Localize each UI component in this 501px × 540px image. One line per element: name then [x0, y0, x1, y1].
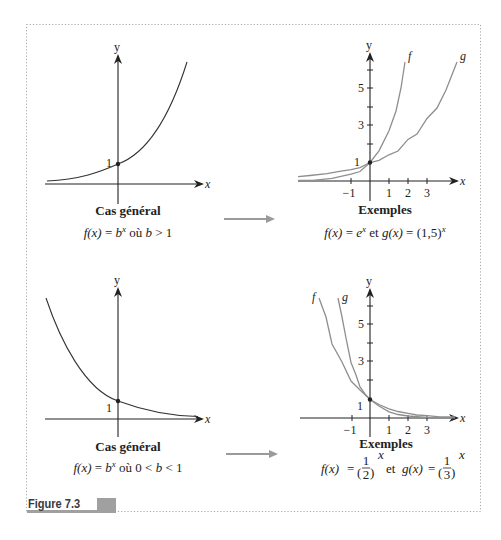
panel-title: Exemples [359, 436, 412, 451]
svg-text:3: 3 [358, 118, 364, 132]
curve-g-1-5-pow-x [298, 62, 457, 177]
panel-top-left: x y 1 Cas général f(x) = bx où b > 1 [45, 40, 211, 240]
svg-text:et: et [386, 461, 396, 476]
svg-text:x: x [458, 447, 465, 462]
svg-text:5: 5 [358, 81, 364, 95]
svg-text:2: 2 [405, 186, 411, 200]
f-curve-label: f [312, 290, 317, 304]
svg-text:=: = [347, 461, 354, 476]
svg-text:1: 1 [363, 453, 370, 468]
panel-title: Cas général [95, 439, 161, 454]
x-axis-label: x [459, 411, 466, 425]
y-ticks: 1 3 5 [357, 306, 373, 413]
y-axis-label: y [114, 273, 120, 287]
panel-formula: f(x) = bx où 0 < b < 1 [73, 459, 182, 475]
curve-f-e-pow-x [298, 62, 405, 181]
g-curve-label: g [460, 49, 466, 63]
svg-text:2: 2 [405, 423, 411, 437]
svg-text:f(x): f(x) [321, 461, 339, 476]
point-label: 1 [106, 401, 112, 415]
svg-text:1: 1 [386, 423, 392, 437]
curve-f-half-pow-x [319, 298, 455, 417]
figure-7-3: x y 1 Cas général f(x) = bx où b > 1 x y… [0, 0, 501, 540]
svg-text:=: = [428, 461, 435, 476]
panel-formula: f(x) = ex et g(x) = (1,5)x [324, 224, 445, 240]
svg-text:2: 2 [363, 467, 370, 482]
svg-text:): ) [451, 465, 455, 480]
svg-text:1: 1 [354, 155, 360, 169]
g-curve-label: g [342, 290, 348, 304]
panel-bottom-right: x y −1 1 2 3 1 3 5 f g Exemples [300, 274, 466, 482]
svg-text:1: 1 [357, 399, 363, 413]
point-0-1 [116, 399, 120, 403]
point-0-1 [116, 162, 120, 166]
svg-text:3: 3 [358, 354, 364, 368]
panel-title: Cas général [95, 203, 161, 218]
svg-text:−1: −1 [343, 186, 356, 200]
svg-text:g(x): g(x) [402, 461, 423, 476]
panel-formula: f(x) = bx où b > 1 [84, 224, 173, 240]
svg-text:x: x [377, 447, 384, 462]
svg-text:): ) [370, 465, 374, 480]
x-axis-label: x [204, 177, 211, 191]
point-label: 1 [106, 156, 112, 170]
svg-text:1: 1 [386, 186, 392, 200]
panel-formula: f(x) = ( 1 2 ) x et g(x) = ( 1 3 ) x [321, 447, 465, 482]
svg-text:1: 1 [444, 453, 451, 468]
svg-text:3: 3 [424, 186, 430, 200]
panel-top-right: x y −1 1 2 3 1 3 5 f g E [298, 38, 466, 240]
svg-text:3: 3 [424, 423, 430, 437]
y-axis-label: y [366, 38, 372, 52]
svg-text:3: 3 [444, 467, 451, 482]
y-axis-label: y [366, 274, 372, 288]
f-curve-label: f [408, 49, 413, 63]
curve-g-third-pow-x [338, 298, 455, 418]
svg-text:(: ( [357, 465, 361, 480]
x-axis-label: x [204, 412, 211, 426]
svg-text:−1: −1 [344, 423, 357, 437]
point-0-1 [368, 160, 372, 164]
x-axis-label: x [459, 174, 466, 188]
panel-title: Exemples [358, 202, 411, 217]
point-0-1 [368, 397, 372, 401]
curve-b-less-1 [46, 298, 198, 417]
svg-text:(: ( [438, 465, 442, 480]
figure-caption: Figure 7.3 [27, 496, 116, 513]
figure-label: Figure 7.3 [28, 496, 80, 511]
panel-bottom-left: x y 1 Cas général f(x) = bx où 0 < b < 1 [45, 273, 211, 475]
svg-text:5: 5 [358, 317, 364, 331]
y-axis-label: y [114, 40, 120, 54]
